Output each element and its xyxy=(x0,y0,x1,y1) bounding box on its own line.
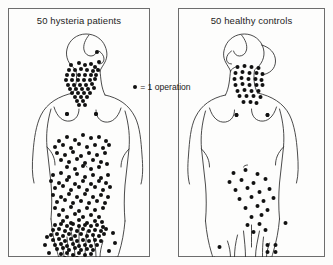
operation-dot xyxy=(93,228,97,232)
operation-dot xyxy=(83,103,87,107)
legend: = 1 operation xyxy=(133,82,191,92)
operation-dot xyxy=(69,63,73,67)
operation-dot xyxy=(85,206,89,210)
operation-dot xyxy=(94,112,98,116)
operation-dot xyxy=(73,246,77,250)
operation-dot xyxy=(77,218,81,222)
body-diagram-left xyxy=(9,25,149,257)
operation-dots-right xyxy=(218,64,288,257)
operation-dot xyxy=(81,179,85,183)
operation-dot xyxy=(233,77,237,81)
operation-dot xyxy=(77,61,81,65)
operation-dot xyxy=(73,212,77,216)
operation-dot xyxy=(248,71,252,75)
operation-dot xyxy=(73,182,77,186)
operation-dot xyxy=(85,234,89,238)
operation-dot xyxy=(103,151,107,155)
operation-dot xyxy=(250,215,254,219)
operation-dot xyxy=(47,251,51,255)
operation-dot xyxy=(228,180,232,184)
operation-dot xyxy=(77,244,81,248)
operation-dot xyxy=(57,227,61,231)
operation-dot xyxy=(83,73,87,77)
operation-dot xyxy=(77,251,81,255)
operation-dot xyxy=(252,230,256,234)
operation-dot xyxy=(91,69,95,73)
operation-dot xyxy=(266,113,270,117)
operation-dot xyxy=(258,190,262,194)
operation-dot xyxy=(77,209,81,213)
operation-dot xyxy=(97,165,101,169)
operation-dot xyxy=(77,224,81,228)
operation-dot xyxy=(266,208,270,212)
operation-dot xyxy=(59,195,63,199)
operation-dot xyxy=(113,241,117,245)
panel-hysteria-patients: 50 hysteria patients xyxy=(8,8,150,257)
operation-dot xyxy=(89,252,93,256)
operation-dot xyxy=(70,91,74,95)
operation-dot xyxy=(236,65,240,69)
operation-dot xyxy=(73,68,77,72)
operation-dot xyxy=(61,246,65,250)
operation-dot xyxy=(49,233,53,237)
operation-dot xyxy=(95,50,99,54)
operation-dot xyxy=(249,100,253,104)
operation-dot xyxy=(86,87,90,91)
operation-dot xyxy=(91,233,95,237)
operation-dot xyxy=(73,138,77,142)
operation-dot xyxy=(79,95,83,99)
operation-dot xyxy=(70,78,74,82)
operation-dot xyxy=(266,250,270,254)
operation-dot xyxy=(274,243,278,247)
operation-dot xyxy=(232,171,236,175)
operation-dot xyxy=(235,113,239,117)
operation-dot xyxy=(65,251,69,255)
operation-dot xyxy=(99,239,103,243)
operation-dot xyxy=(97,215,101,219)
operation-dot xyxy=(103,201,107,205)
operation-dot xyxy=(274,250,278,254)
operation-dot xyxy=(102,232,106,236)
operation-dot xyxy=(61,234,65,238)
operation-dot xyxy=(53,243,57,247)
operation-dot xyxy=(67,192,71,196)
operation-dot xyxy=(106,173,110,177)
operation-dot xyxy=(87,229,91,233)
operation-dot xyxy=(264,177,268,181)
operation-dot xyxy=(93,65,97,69)
operation-dot xyxy=(234,83,238,87)
operation-dot xyxy=(63,239,67,243)
operation-dot xyxy=(106,195,110,199)
operation-dot xyxy=(247,77,251,81)
operation-dot xyxy=(95,199,99,203)
operation-dot xyxy=(73,95,77,99)
panel-healthy-controls: 50 healthy controls xyxy=(178,8,325,257)
operation-dot xyxy=(89,224,93,228)
operation-dot xyxy=(77,185,81,189)
operation-dot xyxy=(89,182,93,186)
operation-dot xyxy=(241,70,245,74)
operation-dot xyxy=(65,165,69,169)
operation-dot xyxy=(69,205,73,209)
operation-dot xyxy=(85,188,89,192)
operation-dot xyxy=(85,145,89,149)
operation-dot xyxy=(69,237,73,241)
operation-dot xyxy=(234,188,238,192)
operation-dot xyxy=(244,206,248,210)
operation-dot xyxy=(104,181,108,185)
operation-dot xyxy=(248,83,252,87)
operation-dot xyxy=(75,239,79,243)
operation-dot xyxy=(91,248,95,252)
operation-dot xyxy=(108,185,112,189)
operation-dot xyxy=(93,185,97,189)
operation-dot xyxy=(63,198,67,202)
operation-dot xyxy=(69,227,73,231)
operation-dot xyxy=(87,201,91,205)
operation-dot xyxy=(83,175,87,179)
operation-dot xyxy=(99,193,103,197)
operation-dot xyxy=(53,145,57,149)
operation-dot xyxy=(85,95,89,99)
operation-dot xyxy=(53,223,57,227)
operation-dot xyxy=(89,136,93,140)
operation-dot xyxy=(89,73,93,77)
